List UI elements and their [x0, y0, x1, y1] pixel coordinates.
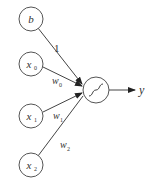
- input-label-b: b: [28, 13, 34, 25]
- weight-label-w2: w: [60, 139, 67, 150]
- weight-sub-w2: 2: [67, 146, 70, 152]
- neuron-diagram: b x 0 x 1 x 2 1 w 0 w 1 w 2 y: [0, 0, 156, 188]
- input-node-b: b: [19, 7, 43, 31]
- weight-label-w1: w: [53, 110, 60, 121]
- weight-label-w0: w: [52, 75, 59, 86]
- input-label-x1: x: [26, 110, 32, 122]
- weight-sub-w1: 1: [60, 117, 63, 123]
- input-sub-x2: 2: [34, 166, 37, 172]
- edge-x1: [43, 93, 82, 112]
- weight-label-b: 1: [54, 42, 60, 54]
- input-sub-x1: 1: [34, 117, 37, 123]
- input-sub-x0: 0: [34, 65, 37, 71]
- weight-sub-w0: 0: [59, 82, 62, 88]
- input-node-x2: x 2: [19, 153, 43, 177]
- input-label-x0: x: [26, 58, 32, 70]
- input-node-x1: x 1: [19, 104, 43, 128]
- neuron-node: [83, 77, 109, 103]
- input-node-x0: x 0: [19, 52, 43, 76]
- output-label-y: y: [138, 83, 145, 97]
- input-label-x2: x: [26, 159, 32, 171]
